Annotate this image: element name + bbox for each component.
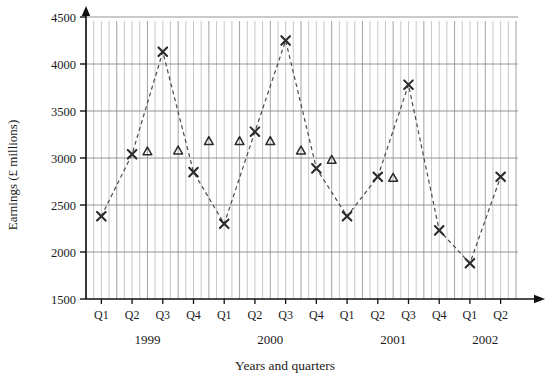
x-tick-label-quarter: Q2 (125, 308, 140, 322)
y-axis-title: Earnings (£ millions) (5, 120, 20, 231)
x-axis-year-label: 1999 (134, 332, 160, 347)
chart-background (0, 0, 557, 382)
x-tick-label-quarter: Q2 (370, 308, 385, 322)
x-axis-year-label: 2000 (257, 332, 283, 347)
x-tick-label-quarter: Q4 (432, 308, 447, 322)
y-tick-label: 3000 (51, 152, 76, 166)
chart-container: 1500200025003000350040004500 Q1Q2Q3Q4Q1Q… (0, 0, 557, 382)
y-tick-label: 2500 (51, 199, 76, 213)
x-tick-label-quarter: Q3 (155, 308, 170, 322)
x-axis-year-label: 2002 (472, 332, 498, 347)
x-tick-label-quarter: Q1 (217, 308, 232, 322)
x-tick-label-quarter: Q2 (248, 308, 263, 322)
earnings-time-series-chart: 1500200025003000350040004500 Q1Q2Q3Q4Q1Q… (0, 0, 557, 382)
x-axis-title: Years and quarters (235, 358, 335, 373)
y-tick-label: 3500 (51, 105, 76, 119)
x-tick-label-quarter: Q3 (278, 308, 293, 322)
x-tick-label-quarter: Q3 (401, 308, 416, 322)
x-tick-label-quarter: Q4 (309, 308, 324, 322)
x-tick-label-quarter: Q1 (340, 308, 355, 322)
y-tick-label: 1500 (51, 293, 76, 307)
y-tick-label: 4000 (51, 58, 76, 72)
y-tick-label: 2000 (51, 246, 76, 260)
x-tick-label-quarter: Q2 (493, 308, 508, 322)
x-axis-year-label: 2001 (380, 332, 406, 347)
x-tick-label-quarter: Q1 (94, 308, 109, 322)
y-tick-label: 4500 (51, 11, 76, 25)
x-tick-label-quarter: Q1 (463, 308, 478, 322)
x-tick-label-quarter: Q4 (186, 308, 201, 322)
